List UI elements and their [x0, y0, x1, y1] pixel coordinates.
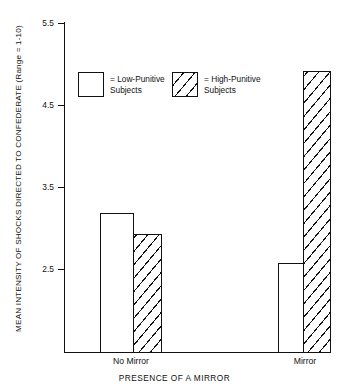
legend-label-low-punitive-line1: = Low-Punitive [110, 74, 165, 85]
bar-mirror-high-punitive [303, 71, 331, 353]
y-tick-mark [58, 269, 64, 270]
x-axis-title: PRESENCE OF A MIRROR [0, 373, 349, 383]
legend-swatch-high-punitive [172, 72, 198, 97]
legend-label-low-punitive-line2: Subjects [110, 85, 165, 96]
legend-label-high-punitive: = High-Punitive Subjects [204, 74, 261, 95]
bar-chart-figure: MEAN INTENSITY OF SHOCKS DIRECTED TO CON… [0, 0, 349, 392]
legend-label-low-punitive: = Low-Punitive Subjects [110, 74, 165, 95]
bar-no-mirror-low-punitive [100, 213, 134, 353]
x-category-label-mirror: Mirror [272, 356, 338, 366]
y-tick-label: 5.5 [28, 18, 54, 28]
y-tick-label: 4.5 [28, 100, 54, 110]
legend-swatch-low-punitive [78, 72, 104, 97]
y-axis-line [64, 22, 65, 353]
y-tick-mark [58, 105, 64, 106]
y-tick-label: 3.5 [28, 182, 54, 192]
x-category-label-no-mirror: No Mirror [89, 356, 173, 366]
y-tick-mark [58, 187, 64, 188]
y-tick-mark [58, 23, 64, 24]
bar-no-mirror-high-punitive [133, 234, 162, 353]
legend-label-high-punitive-line1: = High-Punitive [204, 74, 261, 85]
legend-label-high-punitive-line2: Subjects [204, 85, 261, 96]
bar-mirror-low-punitive [278, 263, 304, 353]
y-axis-title: MEAN INTENSITY OF SHOCKS DIRECTED TO CON… [14, 9, 23, 349]
y-tick-label: 2.5 [28, 264, 54, 274]
